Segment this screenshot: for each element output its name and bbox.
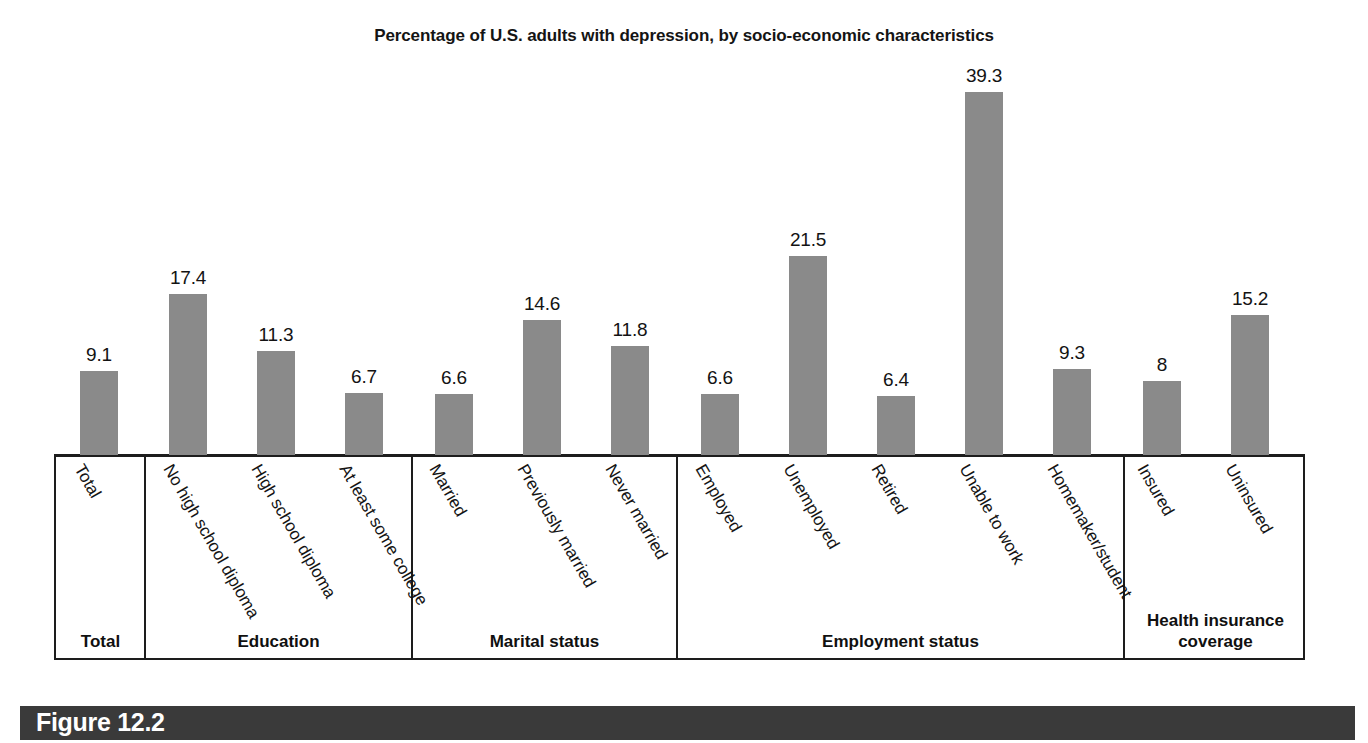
bar-rect: 6.6 (435, 394, 473, 455)
group-divider-3 (676, 455, 678, 658)
group-header-1: Total (56, 631, 145, 652)
bar-rect: 6.7 (345, 393, 383, 455)
bar-value-label: 17.4 (170, 267, 206, 289)
bar-value-label: 6.6 (707, 367, 733, 389)
category-label-10: Retired (867, 461, 911, 518)
bar-value-label: 9.3 (1059, 342, 1085, 364)
category-label-8: Employed (691, 461, 746, 536)
bar-rect: 39.3 (965, 92, 1003, 455)
bar-value-label: 11.3 (259, 324, 294, 346)
bar-value-label: 6.7 (351, 366, 377, 388)
bar-11: 39.3 (965, 92, 1003, 455)
bar-value-label: 6.4 (883, 369, 909, 391)
bar-value-label: 6.6 (441, 367, 467, 389)
bar-rect: 9.1 (80, 371, 118, 455)
group-divider-2 (411, 455, 413, 658)
group-header-3: Marital status (412, 631, 677, 652)
bar-9: 21.5 (789, 256, 827, 455)
bar-rect: 6.6 (701, 394, 739, 455)
group-header-5: Health insurance coverage (1124, 610, 1307, 653)
bar-12: 9.3 (1053, 369, 1091, 455)
bar-1: 9.1 (80, 371, 118, 455)
bar-14: 15.2 (1231, 315, 1269, 455)
bar-value-label: 39.3 (966, 65, 1002, 87)
category-label-box: TotalNo high school diplomaHigh school d… (54, 455, 1305, 660)
bar-value-label: 15.2 (1232, 288, 1268, 310)
bar-value-label: 11.8 (613, 319, 648, 341)
bar-value-label: 8 (1157, 354, 1167, 376)
bar-6: 14.6 (523, 320, 561, 455)
category-label-9: Unemployed (779, 461, 844, 553)
category-label-2: No high school diploma (159, 461, 264, 622)
bar-rect: 9.3 (1053, 369, 1091, 455)
category-label-3: High school diploma (247, 461, 340, 602)
bar-rect: 17.4 (169, 294, 207, 455)
group-header-4: Employment status (677, 631, 1124, 652)
category-label-4: At least some college (335, 461, 432, 609)
bar-13: 8 (1143, 381, 1181, 455)
chart-plot-area: 9.117.411.36.76.614.611.86.621.56.439.39… (0, 0, 1368, 456)
bar-5: 6.6 (435, 394, 473, 455)
group-divider-1 (144, 455, 146, 658)
category-label-11: Unable to work (955, 461, 1028, 568)
bar-7: 11.8 (611, 346, 649, 455)
bar-value-label: 14.6 (524, 293, 560, 315)
category-label-5: Married (425, 461, 471, 520)
figure-caption-bar (20, 706, 1355, 740)
bar-rect: 11.8 (611, 346, 649, 455)
bar-10: 6.4 (877, 396, 915, 455)
bar-rect: 8 (1143, 381, 1181, 455)
category-label-7: Never married (601, 461, 672, 563)
bar-rect: 15.2 (1231, 315, 1269, 455)
bar-8: 6.6 (701, 394, 739, 455)
bar-rect: 21.5 (789, 256, 827, 455)
bar-rect: 11.3 (257, 351, 295, 455)
bar-rect: 14.6 (523, 320, 561, 455)
label-box-top-border (56, 455, 1303, 457)
bar-rect: 6.4 (877, 396, 915, 455)
bar-value-label: 21.5 (790, 229, 826, 251)
bar-3: 11.3 (257, 351, 295, 455)
group-header-2: Education (145, 631, 412, 652)
category-label-6: Previously married (513, 461, 600, 591)
bar-4: 6.7 (345, 393, 383, 455)
figure-caption-label: Figure 12.2 (36, 708, 165, 737)
bar-2: 17.4 (169, 294, 207, 455)
category-label-12: Homemaker/student (1043, 461, 1136, 602)
figure-root: Percentage of U.S. adults with depressio… (0, 0, 1368, 743)
bar-value-label: 9.1 (86, 344, 112, 366)
category-label-13: Insured (1133, 461, 1178, 520)
category-label-1: Total (70, 461, 105, 502)
category-label-14: Uninsured (1221, 461, 1277, 537)
